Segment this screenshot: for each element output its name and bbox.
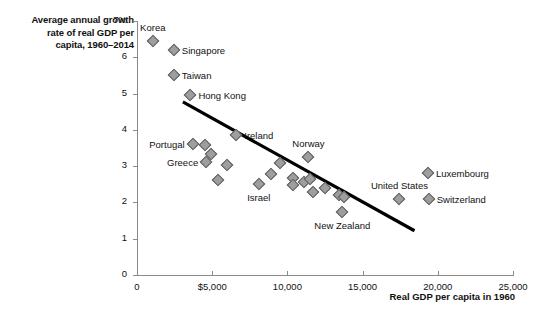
data-point-label: Greece xyxy=(167,156,198,167)
data-point-label: Norway xyxy=(292,138,324,149)
data-point-label: Luxembourg xyxy=(436,167,489,178)
scatter-chart-figure: Average annual growth rate of real GDP p… xyxy=(0,0,537,316)
x-axis-title: Real GDP per capita in 1960 xyxy=(390,291,516,302)
data-point-label: Israel xyxy=(247,192,270,203)
data-point-label: Portugal xyxy=(149,139,184,150)
data-point-label: Singapore xyxy=(182,45,225,56)
data-point-label: Ireland xyxy=(244,130,273,141)
trendline xyxy=(0,0,537,316)
data-point-label: United States xyxy=(371,180,428,191)
data-point-label: Korea xyxy=(140,22,165,33)
data-point-label: Switzerland xyxy=(437,193,486,204)
data-point-label: Taiwan xyxy=(182,69,212,80)
data-point-label: Hong Kong xyxy=(198,89,246,100)
data-point-label: New Zealand xyxy=(314,220,370,231)
